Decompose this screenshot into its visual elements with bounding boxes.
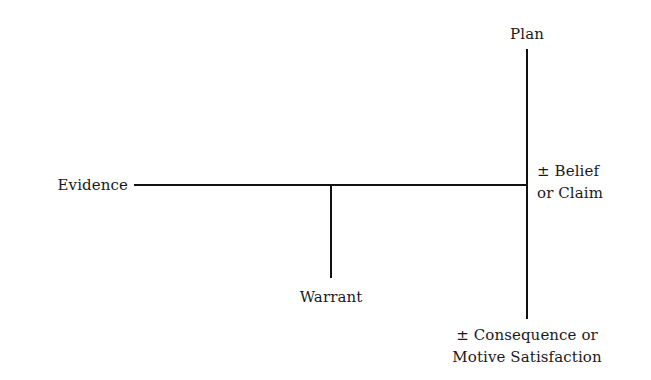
evidence-label: Evidence — [24, 174, 128, 196]
belief-line-2: or Claim — [537, 182, 603, 204]
belief-line-1: ± Belief — [537, 160, 603, 182]
plan-label: Plan — [510, 23, 544, 45]
consequence-label: ± Consequence or Motive Satisfaction — [452, 324, 601, 368]
warrant-line — [330, 185, 332, 278]
consequence-line-1: ± Consequence or — [452, 324, 601, 346]
argument-diagram: Plan Evidence ± Belief or Claim Warrant … — [0, 0, 651, 380]
belief-claim-label: ± Belief or Claim — [537, 160, 603, 204]
consequence-line-2: Motive Satisfaction — [452, 346, 601, 368]
warrant-label: Warrant — [300, 286, 363, 308]
